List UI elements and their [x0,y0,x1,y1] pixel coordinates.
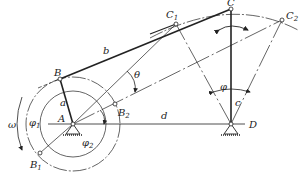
label-c: C [227,0,235,8]
label-c1: C1 [166,9,178,22]
oscillation-arrow [219,26,248,30]
label-c2: C2 [286,10,299,23]
ab-extension [38,79,60,88]
label-link-a: a [60,97,66,108]
label-phi1: φ1 [29,117,40,130]
label-b1: B1 [29,159,42,172]
label-b2: B2 [117,107,130,120]
label-omega: ω [8,119,16,130]
label-b: B [53,67,61,78]
line-a-c2 [73,20,282,124]
label-theta: θ [134,69,140,80]
joint-d [229,122,233,126]
label-a-point: A [57,113,65,124]
omega-arrow [17,97,22,150]
line-b1-a-extension [40,124,73,153]
mechanism-diagram: B A B1 B2 C C1 C2 D a b c d θ φ ω φ1 φ2 [0,0,303,182]
label-phi2: φ2 [82,137,94,150]
label-phi: φ [220,81,227,92]
label-link-b: b [103,45,109,56]
joint-c1 [174,22,178,26]
joint-b2 [113,102,117,106]
line-d-c1 [176,24,231,124]
coupler-link-b [60,9,231,79]
label-link-c: c [235,97,241,108]
joint-c2 [280,18,284,22]
label-d: D [248,119,257,130]
joint-b1 [38,151,42,155]
label-link-d: d [161,110,167,121]
joint-a [71,122,75,126]
line-d-c2 [231,20,282,124]
